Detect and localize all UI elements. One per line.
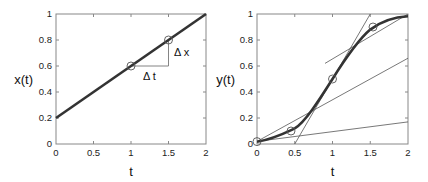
right-ytick: 0.2 — [240, 112, 253, 123]
right-xtick: 0 — [254, 147, 259, 158]
right-ylabel: y(t) — [216, 72, 235, 87]
left-xtick: 1 — [128, 147, 133, 158]
right-ytick: 1 — [248, 8, 253, 19]
left-xtick: 0.5 — [87, 147, 100, 158]
right-xlabel: t — [331, 164, 335, 179]
left-xtick: 0 — [53, 147, 58, 158]
right-ytick: 0.4 — [240, 86, 253, 97]
left-plot: 0 0.5 1 1.5 2 0 0.2 0.4 0.6 0.8 1 t x(t)… — [14, 8, 208, 179]
left-ytick: 0.6 — [39, 60, 52, 71]
left-axes-frame — [56, 14, 206, 144]
tangent-line-t0 — [257, 122, 408, 141]
tangent-line-t15 — [325, 14, 408, 63]
left-ytick: 0 — [47, 138, 52, 149]
right-ytick: 0.8 — [240, 34, 253, 45]
left-xtick: 2 — [203, 147, 208, 158]
right-data-curve — [257, 16, 408, 141]
left-xlabel: t — [129, 164, 133, 179]
right-xtick: 0.5 — [288, 147, 301, 158]
left-ytick: 0.2 — [39, 112, 52, 123]
left-ytick: 0.8 — [39, 34, 52, 45]
right-ytick: 0 — [248, 138, 253, 149]
right-ytick: 0.6 — [240, 60, 253, 71]
tangent-line-t05 — [257, 58, 408, 141]
right-xtick: 1 — [330, 147, 335, 158]
delta-t-label: Δ t — [143, 70, 156, 82]
left-data-line — [56, 14, 206, 118]
figure: 0 0.5 1 1.5 2 0 0.2 0.4 0.6 0.8 1 t x(t)… — [0, 0, 428, 182]
left-xtick: 1.5 — [162, 147, 175, 158]
right-plot: 0 0.5 1 1.5 2 0 0.2 0.4 0.6 0.8 1 t y(t) — [216, 8, 410, 179]
left-ytick: 1 — [47, 8, 52, 19]
right-xtick: 2 — [405, 147, 410, 158]
left-ytick: 0.4 — [39, 86, 52, 97]
left-ylabel: x(t) — [14, 72, 33, 87]
delta-x-label: Δ x — [174, 46, 190, 58]
right-xtick: 1.5 — [364, 147, 377, 158]
